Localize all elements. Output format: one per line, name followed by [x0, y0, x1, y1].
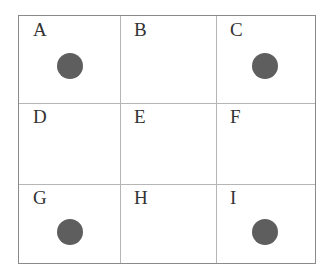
cell-f: F	[216, 103, 314, 185]
dot-marker	[252, 219, 278, 245]
cell-label: A	[33, 19, 47, 41]
cell-i: I	[216, 184, 314, 266]
cell-label: E	[134, 106, 146, 128]
three-by-three-grid: A B C D E F G H I	[18, 15, 316, 264]
cell-label: C	[230, 19, 243, 41]
cell-label: G	[33, 187, 47, 209]
cell-e: E	[120, 103, 218, 185]
cell-h: H	[120, 184, 218, 266]
cell-label: D	[33, 106, 47, 128]
cell-label: F	[230, 106, 241, 128]
cell-c: C	[216, 16, 314, 98]
cell-d: D	[19, 103, 117, 185]
dot-marker	[57, 53, 83, 79]
cell-label: I	[230, 187, 236, 209]
cell-b: B	[120, 16, 218, 98]
cell-label: H	[134, 187, 148, 209]
cell-label: B	[134, 19, 147, 41]
dot-marker	[252, 53, 278, 79]
cell-g: G	[19, 184, 117, 266]
cell-a: A	[19, 16, 117, 98]
dot-marker	[57, 219, 83, 245]
